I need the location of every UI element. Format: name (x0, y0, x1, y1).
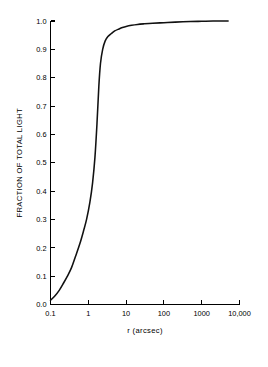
x-tick-label: 1000 (193, 309, 209, 318)
x-tick-label: 10,000 (228, 309, 251, 318)
x-tick-label: 1 (86, 309, 90, 318)
y-tick-label: 0.4 (36, 187, 46, 196)
data-series-cumulative-light-profile (51, 21, 229, 300)
y-tick-label: 0.7 (36, 102, 46, 111)
y-tick-label: 1.0 (36, 17, 46, 26)
y-axis-tick-labels: 0.00.10.20.30.40.50.60.70.80.91.0 (36, 17, 46, 310)
y-tick-label: 0.5 (36, 158, 46, 167)
y-axis-title-group: FRACTION OF TOTAL LIGHT (15, 108, 24, 217)
x-axis-tick-marks (51, 300, 240, 305)
x-tick-label: 10 (122, 309, 130, 318)
x-tick-label: 0.1 (45, 309, 55, 318)
axis-frame (51, 21, 240, 305)
y-tick-label: 0.8 (36, 73, 46, 82)
y-axis-tick-marks (51, 21, 56, 305)
y-axis-title: FRACTION OF TOTAL LIGHT (15, 108, 24, 217)
plot-axes (51, 21, 240, 305)
y-tick-label: 0.1 (36, 272, 46, 281)
x-axis-title-group: r (arcsec) (127, 326, 163, 335)
y-tick-label: 0.2 (36, 244, 46, 253)
data-series-group (51, 21, 229, 300)
line-chart: 0.00.10.20.30.40.50.60.70.80.91.0 0.1110… (0, 0, 268, 367)
figure-container: 0.00.10.20.30.40.50.60.70.80.91.0 0.1110… (0, 0, 268, 367)
y-tick-label: 0.6 (36, 130, 46, 139)
x-axis-tick-labels: 0.1110100100010,000 (45, 309, 250, 318)
x-tick-label: 100 (158, 309, 170, 318)
y-tick-label: 0.3 (36, 215, 46, 224)
y-tick-label: 0.9 (36, 45, 46, 54)
x-axis-title: r (arcsec) (127, 326, 163, 335)
